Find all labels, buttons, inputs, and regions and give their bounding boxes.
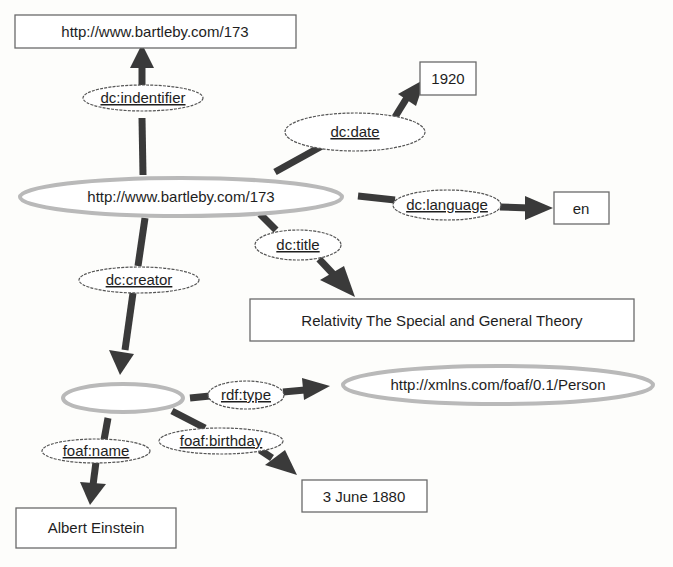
svg-text:http://xmlns.com/foaf/0.1/Pers: http://xmlns.com/foaf/0.1/Person (390, 376, 605, 393)
arrowhead-icon (302, 378, 330, 400)
arrowhead-icon (80, 482, 106, 505)
svg-text:en: en (573, 200, 590, 217)
property-birthday[interactable]: foaf:birthday (159, 428, 283, 454)
svg-text:Relativity The Special and Gen: Relativity The Special and General Theor… (301, 312, 583, 329)
literal-date: 1920 (420, 62, 476, 95)
svg-text:dc:title[interactable]: dc:title (276, 236, 319, 253)
arrowhead-icon (109, 350, 134, 375)
property-creator[interactable]: dc:creator (79, 267, 199, 293)
svg-text:foaf:name[interactable]: foaf:name (63, 442, 130, 459)
svg-text:dc:indentifier[interactable]: dc:indentifier (100, 89, 185, 106)
property-date[interactable]: dc:date (285, 113, 425, 151)
resource-person-type: http://xmlns.com/foaf/0.1/Person (343, 366, 653, 404)
resource-blank-node (63, 384, 183, 412)
svg-text:dc:language[interactable]: dc:language (406, 196, 488, 213)
svg-text:rdf:type[interactable]: rdf:type (221, 386, 271, 403)
svg-text:dc:creator[interactable]: dc:creator (106, 271, 173, 288)
resource-subject: http://www.bartleby.com/173 (20, 178, 342, 216)
rdf-graph-diagram: http://www.bartleby.com/173 1920 http://… (0, 0, 673, 567)
literal-identifier: http://www.bartleby.com/173 (15, 15, 296, 48)
literal-name: Albert Einstein (16, 508, 176, 548)
edge-creator (109, 218, 145, 375)
arrowhead-icon (130, 48, 154, 68)
literal-birthday: 3 June 1880 (302, 480, 427, 512)
property-language[interactable]: dc:language (393, 190, 501, 220)
literal-language: en (554, 192, 609, 224)
arrowhead-icon (525, 196, 553, 220)
svg-text:http://www.bartleby.com/173: http://www.bartleby.com/173 (61, 23, 248, 40)
svg-text:dc:date[interactable]: dc:date (330, 123, 379, 140)
property-title[interactable]: dc:title (255, 230, 341, 260)
svg-text:foaf:birthday[interactable]: foaf:birthday (180, 432, 263, 449)
literal-title: Relativity The Special and General Theor… (250, 299, 634, 341)
svg-text:1920: 1920 (431, 70, 464, 87)
svg-text:Albert Einstein: Albert Einstein (48, 519, 145, 536)
property-name[interactable]: foaf:name (42, 439, 150, 463)
property-identifier[interactable]: dc:indentifier (83, 85, 203, 111)
property-type[interactable]: rdf:type (208, 381, 284, 409)
svg-text:http://www.bartleby.com/173: http://www.bartleby.com/173 (87, 188, 274, 205)
svg-text:3 June 1880: 3 June 1880 (323, 488, 406, 505)
